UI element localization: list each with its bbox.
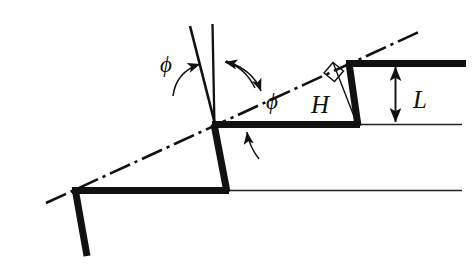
figure-canvas: ϕ ϕ H L [0, 0, 472, 274]
label-length-L: L [412, 86, 427, 113]
phi-angle-lower [226, 61, 261, 159]
reference-lines [229, 125, 462, 191]
segment-middle-riser [214, 124, 227, 192]
label-phi-lower: ϕ [266, 89, 278, 114]
phi-upper-arc-left [173, 64, 200, 96]
segment-lower-left-leg [76, 191, 88, 256]
phi-lower-arc-upper [226, 61, 261, 91]
label-phi-upper: ϕ [160, 52, 172, 77]
phi-lower-arc-lower [247, 132, 259, 159]
stepped-profile-diagram: ϕ ϕ H L [0, 0, 472, 274]
centerline-dash-dot [46, 31, 421, 203]
inclined-centerline [46, 31, 421, 203]
label-height-H: H [310, 91, 331, 118]
